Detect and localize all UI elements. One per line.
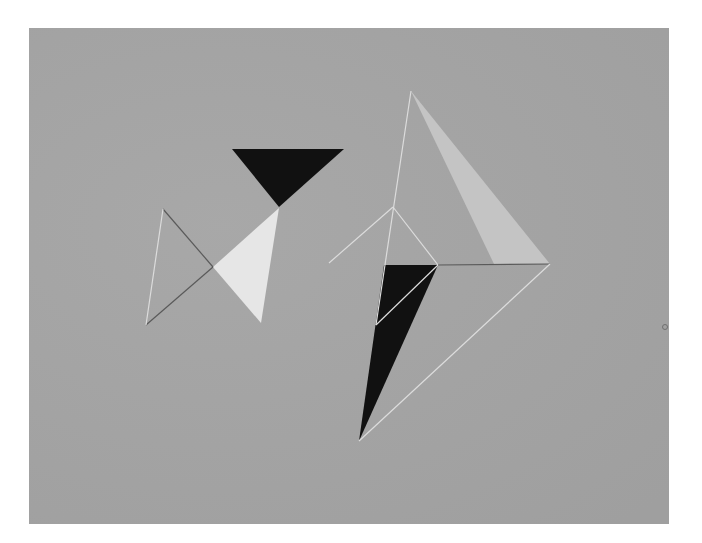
right-line	[438, 264, 550, 265]
small-mark	[663, 325, 668, 330]
right-line	[393, 207, 438, 265]
light-triangle	[411, 91, 550, 264]
right-line	[329, 207, 393, 263]
black-spike	[359, 265, 438, 441]
left-line	[163, 209, 213, 267]
geometric-composition	[0, 0, 702, 543]
left-line	[146, 209, 163, 325]
black-triangle	[232, 149, 344, 207]
left-line	[146, 267, 213, 325]
white-triangle	[213, 208, 279, 323]
